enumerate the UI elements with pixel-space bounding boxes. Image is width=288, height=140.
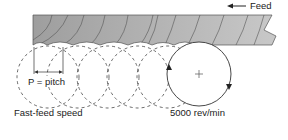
speed-label: Fast-feed speed [14,107,83,118]
pitch-dimension [34,47,63,74]
feed-arrow-icon [227,4,246,9]
workpiece [33,15,276,45]
rpm-label: 5000 rev/min [170,107,225,118]
cutter-current [166,42,232,106]
pitch-label: P = pitch [27,76,66,87]
feed-label: Feed [250,0,272,11]
milling-diagram [0,0,288,140]
